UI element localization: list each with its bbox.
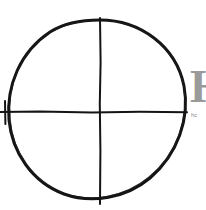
canvas-background [0, 0, 206, 210]
drawing-canvas: H hc [0, 0, 206, 210]
vertical-crosshair-line [100, 18, 101, 204]
horizontal-crosshair-line [0, 112, 187, 113]
circle-crosshair-drawing [0, 0, 206, 210]
